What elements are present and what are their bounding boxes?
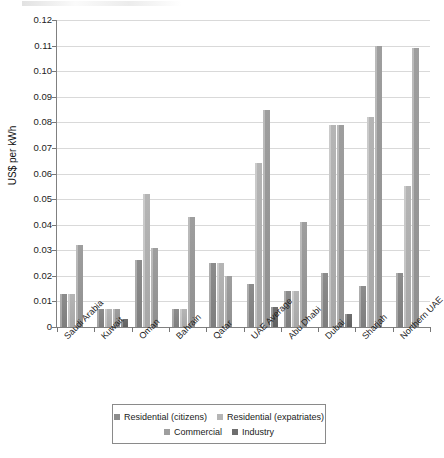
bar: [337, 125, 344, 327]
y-tick-label: 0.05: [34, 194, 53, 204]
bar: [396, 273, 403, 327]
bar: [255, 163, 262, 327]
y-tick-label: 0.06: [34, 169, 53, 179]
bar: [60, 294, 67, 327]
bar: [367, 117, 374, 327]
bar: [263, 110, 270, 327]
bar: [188, 217, 195, 327]
bar: [135, 260, 142, 327]
x-tick-mark: [281, 327, 282, 332]
bar-group: [206, 20, 243, 327]
bar: [209, 263, 216, 327]
bar-group: [244, 20, 281, 327]
bar: [329, 125, 336, 327]
y-tick-label: 0.01: [34, 296, 53, 306]
bar: [151, 248, 158, 327]
x-tick-mark: [57, 327, 58, 332]
x-tick-mark: [94, 327, 95, 332]
x-tick-mark: [318, 327, 319, 332]
y-axis-label: US$ per kWh: [7, 86, 18, 226]
bar-group: [393, 20, 430, 327]
bar: [247, 284, 254, 327]
x-tick-mark: [355, 327, 356, 332]
plot-area: [57, 20, 430, 327]
legend-item-residential-expatriates: Residential (expatriates): [217, 412, 324, 422]
x-tick-mark: [206, 327, 207, 332]
bar-group: [132, 20, 169, 327]
y-tick-label: 0.10: [34, 66, 53, 76]
x-tick-mark: [169, 327, 170, 332]
legend-label-industry: Industry: [242, 427, 274, 437]
legend-item-industry: Industry: [232, 427, 274, 437]
x-tick-mark: [430, 327, 431, 332]
bar: [321, 273, 328, 327]
legend-row-bottom: Commercial Industry: [119, 427, 319, 437]
y-tick-label: 0.03: [34, 245, 53, 255]
chart-legend: Residential (citizens) Residential (expa…: [112, 404, 326, 444]
y-tick-label: 0.04: [34, 220, 53, 230]
x-tick-mark: [244, 327, 245, 332]
bar-group: [318, 20, 355, 327]
bar: [359, 286, 366, 327]
legend-swatch-residential-expatriates: [217, 414, 223, 420]
x-tick-mark: [132, 327, 133, 332]
y-tick-label: 0.12: [34, 15, 53, 25]
bar: [143, 194, 150, 327]
legend-item-residential-citizens: Residential (citizens): [114, 412, 207, 422]
y-axis-ticks: 00.010.020.030.040.050.060.070.080.090.1…: [0, 0, 52, 458]
bar: [345, 314, 352, 327]
y-tick-label: 0.02: [34, 271, 53, 281]
bar: [375, 46, 382, 327]
x-tick-mark: [393, 327, 394, 332]
legend-label-residential-citizens: Residential (citizens): [124, 412, 207, 422]
bar: [404, 186, 411, 327]
bar: [412, 48, 419, 327]
legend-swatch-commercial: [164, 429, 170, 435]
bar: [217, 263, 224, 327]
legend-swatch-industry: [232, 429, 238, 435]
y-tick-label: 0.08: [34, 117, 53, 127]
bar-group: [169, 20, 206, 327]
legend-row-top: Residential (citizens) Residential (expa…: [119, 412, 319, 422]
bar-group: [94, 20, 131, 327]
legend-label-residential-expatriates: Residential (expatriates): [227, 412, 324, 422]
bar: [172, 309, 179, 327]
bar-group: [355, 20, 392, 327]
legend-label-commercial: Commercial: [174, 427, 222, 437]
bar: [300, 222, 307, 327]
y-tick-label: 0.09: [34, 92, 53, 102]
bar: [97, 309, 104, 327]
legend-item-commercial: Commercial: [164, 427, 222, 437]
y-tick-label: 0.11: [34, 41, 52, 51]
y-tick-label: 0.07: [34, 143, 53, 153]
legend-swatch-residential-citizens: [114, 414, 120, 420]
bar-group: [281, 20, 318, 327]
bar-group: [57, 20, 94, 327]
